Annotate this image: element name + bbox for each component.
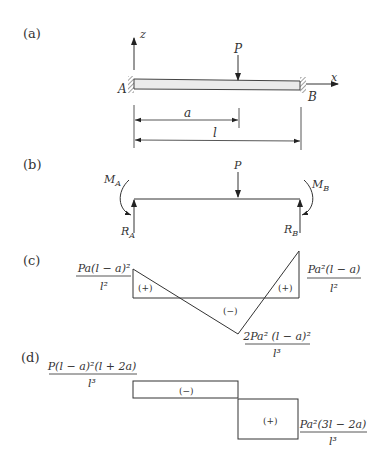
load-label: P [233, 42, 243, 56]
right-shear-numerator: Pa²(3l − 2a) [299, 418, 367, 431]
right-moment-denominator: l² [330, 282, 338, 295]
moment-a-arrow-icon [120, 180, 131, 215]
left-shear-denominator: l³ [88, 377, 96, 390]
load-label: P [233, 159, 242, 172]
sign-left: (+) [138, 283, 153, 293]
panel-a: (a) z A B x P a l [23, 26, 338, 150]
panel-a-label: (a) [23, 26, 41, 41]
panel-c-label: (c) [23, 253, 40, 268]
panel-d-shear-diagram: (d) (−) (+) P(l − a)²(l + 2a) l³ Pa²(3l … [21, 350, 367, 448]
dim-l-arrow-icon [135, 140, 300, 141]
beam-diagram-figure: (a) z A B x P a l (b) P RA [0, 0, 386, 461]
support-b-label: B [307, 90, 317, 104]
right-moment-numerator: Pa²(l − a) [307, 263, 361, 276]
left-moment-denominator: l² [100, 280, 108, 293]
fixed-support-b-icon [300, 77, 306, 93]
panel-c-moment-diagram: (c) (+) (−) (+) Pa(l − a)² l² Pa²(l − a)… [23, 251, 361, 360]
panel-b-label: (b) [23, 157, 41, 172]
right-shear-denominator: l³ [329, 435, 337, 448]
min-moment-denominator: l³ [273, 347, 281, 360]
left-moment-numerator: Pa(l − a)² [77, 262, 131, 275]
dim-a-label: a [184, 106, 191, 120]
moment-a-label: MA [103, 173, 121, 188]
moment-b-label: MB [311, 178, 329, 193]
dim-l-label: l [213, 126, 217, 140]
sign-left: (−) [179, 386, 194, 396]
reaction-b-label: RB [283, 223, 298, 238]
sign-right: (+) [263, 416, 278, 426]
sign-right: (+) [278, 283, 293, 293]
z-axis-label: z [139, 28, 146, 41]
left-shear-numerator: P(l − a)²(l + 2a) [47, 360, 137, 373]
panel-b: (b) P RA RB MA MB [23, 157, 329, 240]
fixed-support-a-icon [128, 76, 134, 93]
support-a-label: A [117, 82, 127, 96]
min-moment-numerator: 2Pa² (l − a)² [242, 330, 311, 343]
x-axis-label: x [331, 71, 338, 84]
moment-curve [133, 251, 299, 334]
reaction-a-label: RA [120, 225, 135, 240]
panel-d-label: (d) [21, 350, 39, 365]
beam [134, 79, 300, 90]
sign-mid: (−) [223, 306, 238, 316]
